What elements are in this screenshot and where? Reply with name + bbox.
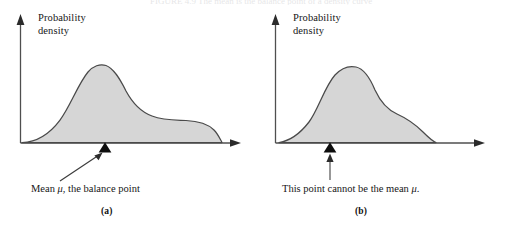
panel-b: Probability density This point cannot be… <box>255 0 509 231</box>
callout-arrow-a <box>60 153 103 181</box>
callout-prefix-a: Mean <box>31 183 58 194</box>
y-axis-label-a: Probability density <box>38 12 86 37</box>
callout-arrow-b <box>326 153 333 180</box>
y-axis-label-line1-b: Probability <box>293 12 341 23</box>
density-curve-area-b <box>279 67 436 143</box>
callout-suffix-b: . <box>417 183 420 194</box>
y-axis-b <box>272 14 280 143</box>
callout-text-b: This point cannot be the mean μ. <box>282 183 419 195</box>
callout-arrowhead-icon-b <box>326 153 333 162</box>
not-the-mean-triangle-b <box>324 142 337 152</box>
y-axis-arrowhead-icon <box>17 14 25 25</box>
x-axis-arrowhead-icon <box>474 139 485 147</box>
y-axis-arrowhead-icon <box>272 14 280 25</box>
panel-tag-a: (a) <box>101 206 113 216</box>
figure-root: FIGURE 4.9 The mean is the balance point… <box>0 0 509 231</box>
y-axis-label-line1-a: Probability <box>38 12 86 23</box>
density-curve-area-a <box>22 65 222 143</box>
y-axis-label-line2-b: density <box>293 25 324 36</box>
x-axis-arrowhead-icon <box>230 139 241 147</box>
callout-text-a: Mean μ, the balance point <box>31 183 140 195</box>
balance-point-triangle-a <box>99 142 112 152</box>
panel-tag-b: (b) <box>355 206 367 216</box>
callout-prefix-b: This point cannot be the mean <box>282 183 411 194</box>
y-axis-label-line2-a: density <box>38 25 69 36</box>
y-axis-a <box>17 14 25 143</box>
y-axis-label-b: Probability density <box>293 12 341 37</box>
callout-arrowhead-icon-a <box>94 153 102 161</box>
callout-suffix-a: , the balance point <box>63 183 140 194</box>
panel-a: Probability density Mean μ, the balance … <box>0 0 254 231</box>
